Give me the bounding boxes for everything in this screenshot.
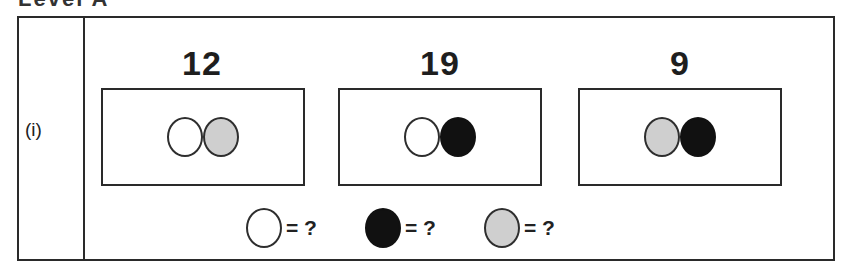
black-circle-icon — [680, 117, 716, 157]
legend-black: = ? — [365, 208, 436, 248]
group-1-total: 12 — [102, 44, 302, 83]
group-3-box — [578, 88, 782, 186]
white-circle-icon — [246, 208, 282, 248]
group-1-box — [101, 88, 305, 186]
problem-label: (i) — [25, 119, 42, 141]
grey-circle-icon — [203, 117, 239, 157]
legend-white-text: = ? — [286, 216, 317, 240]
grey-circle-icon — [644, 117, 680, 157]
group-3-total: 9 — [580, 44, 780, 83]
section-heading: Level A — [18, 0, 109, 12]
grey-circle-icon — [484, 208, 520, 248]
white-circle-icon — [404, 117, 440, 157]
group-2-box — [338, 88, 542, 186]
group-2-total: 19 — [340, 44, 540, 83]
legend-grey-text: = ? — [524, 216, 555, 240]
legend-black-text: = ? — [405, 216, 436, 240]
black-circle-icon — [440, 117, 476, 157]
white-circle-icon — [167, 117, 203, 157]
legend-white: = ? — [246, 208, 317, 248]
legend-grey: = ? — [484, 208, 555, 248]
black-circle-icon — [365, 208, 401, 248]
label-column-divider — [83, 16, 85, 261]
